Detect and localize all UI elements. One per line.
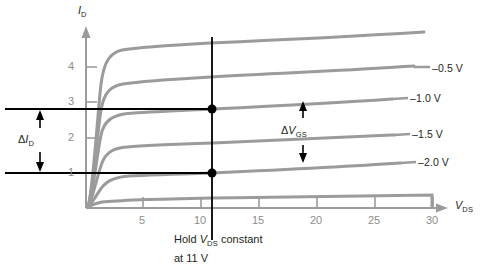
x-axis-label-sub: DS bbox=[462, 205, 473, 214]
hold-vds-note-line2: at 11 V bbox=[174, 251, 263, 266]
delta-vgs-sub: GS bbox=[296, 130, 307, 139]
y-tick-label-4: 4 bbox=[68, 60, 74, 72]
curve-minus-1-0v bbox=[88, 99, 392, 207]
delta-id-label: ΔID bbox=[18, 133, 34, 148]
leader-minus-2-0v bbox=[400, 162, 416, 163]
y-tick-label-1: 1 bbox=[68, 166, 74, 178]
x-tick-label-5: 5 bbox=[139, 214, 145, 226]
hold-vds-note-line1: Hold VDS constant bbox=[174, 232, 263, 251]
curve-label-minus-0-5v: –0.5 V bbox=[432, 62, 463, 74]
delta-id-arrowhead-up bbox=[36, 110, 44, 120]
hold-vds-note-pre: Hold bbox=[174, 233, 200, 245]
leader-minus-1-5v bbox=[394, 134, 410, 135]
delta-vgs-arrowhead-down bbox=[299, 153, 307, 163]
x-tick-label-20: 20 bbox=[310, 214, 322, 226]
curve-label-minus-1-0v: –1.0 V bbox=[410, 92, 441, 104]
x-axis-label: VDS bbox=[455, 199, 473, 214]
hold-vds-note-post: constant bbox=[218, 233, 263, 245]
delta-vgs-var: V bbox=[288, 124, 295, 136]
x-axis-arrowhead bbox=[436, 204, 448, 213]
y-axis-label-sub: D bbox=[81, 10, 87, 19]
curve-top bbox=[88, 32, 424, 207]
x-tick-label-30: 30 bbox=[426, 214, 438, 226]
curve-bottom bbox=[88, 195, 432, 207]
jfet-drain-characteristics-figure: ID VDS 4 3 2 1 5 10 15 20 25 30 –0.5 V –… bbox=[0, 0, 494, 266]
operating-point-lower bbox=[208, 169, 217, 178]
delta-id-arrowhead-down bbox=[36, 162, 44, 172]
curve-label-minus-2-0v: –2.0 V bbox=[418, 156, 449, 168]
hold-vds-note-var: V bbox=[200, 233, 207, 245]
label-leaders-group bbox=[392, 67, 430, 163]
annotation-lines-group bbox=[5, 37, 213, 240]
leader-minus-1-0v bbox=[392, 98, 408, 99]
y-axis-label: ID bbox=[78, 4, 87, 19]
curve-label-minus-1-5v: –1.5 V bbox=[412, 128, 443, 140]
y-tick-label-3: 3 bbox=[68, 95, 74, 107]
y-tick-label-2: 2 bbox=[68, 131, 74, 143]
x-tick-label-15: 15 bbox=[252, 214, 264, 226]
delta-vgs-label: ΔVGS bbox=[281, 124, 307, 139]
y-axis-arrowhead bbox=[82, 26, 91, 38]
delta-id-sub: D bbox=[28, 139, 34, 148]
hold-vds-note-sub: DS bbox=[207, 239, 218, 248]
hold-vds-note: Hold VDS constant at 11 V bbox=[174, 232, 263, 266]
operating-point-upper bbox=[208, 105, 217, 114]
x-tick-label-25: 25 bbox=[368, 214, 380, 226]
axes-group bbox=[82, 26, 449, 213]
x-tick-label-10: 10 bbox=[194, 214, 206, 226]
curves-group bbox=[88, 32, 432, 207]
